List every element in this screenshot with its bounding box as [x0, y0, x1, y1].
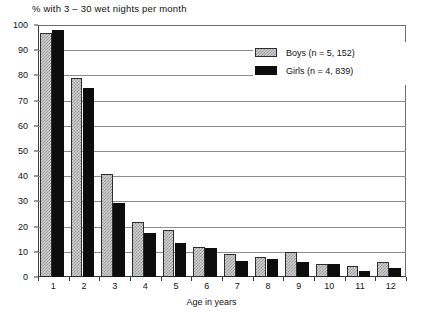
y-tick-mark: [34, 25, 38, 26]
x-tick-label: 7: [235, 281, 240, 291]
x-tick-mark: [222, 277, 223, 281]
y-tick-mark: [34, 251, 38, 252]
x-tick-mark: [314, 277, 315, 281]
legend-item-boys: Boys (n = 5, 152): [255, 45, 407, 60]
chart-title: % with 3 – 30 wet nights per month: [32, 3, 187, 14]
y-tick-mark: [34, 176, 38, 177]
y-tick-label: 10: [2, 247, 28, 257]
bar-boys-age-8: [255, 257, 267, 277]
x-tick-label: 11: [355, 281, 364, 291]
y-tick-label: 40: [2, 171, 28, 181]
y-tick-label: 50: [2, 146, 28, 156]
bar-boys-age-4: [132, 222, 144, 277]
y-tick-mark: [34, 125, 38, 126]
y-tick-label: 60: [2, 121, 28, 131]
bar-girls-age-8: [267, 259, 279, 277]
x-tick-label: 12: [386, 281, 396, 291]
bar-girls-age-6: [205, 248, 217, 277]
bar-boys-age-3: [101, 174, 113, 277]
x-tick-mark: [345, 277, 346, 281]
bar-girls-age-10: [328, 264, 340, 277]
y-tick-label: 90: [2, 45, 28, 55]
bar-girls-age-9: [297, 262, 309, 277]
x-tick-label: 9: [296, 281, 301, 291]
girls-swatch-icon: [255, 66, 277, 75]
bar-chart: % with 3 – 30 wet nights per month 01020…: [0, 0, 423, 320]
y-tick-label: 80: [2, 70, 28, 80]
legend-label-boys: Boys (n = 5, 152): [286, 48, 355, 58]
x-tick-mark: [406, 277, 407, 281]
x-tick-label: 1: [51, 281, 56, 291]
x-tick-mark: [283, 277, 284, 281]
bar-boys-age-9: [285, 252, 297, 277]
x-axis-title: Age in years: [0, 297, 423, 307]
x-tick-label: 6: [204, 281, 209, 291]
gridline: [38, 25, 406, 26]
bar-girls-age-7: [236, 261, 248, 277]
x-tick-label: 10: [324, 281, 334, 291]
bar-girls-age-5: [175, 243, 187, 277]
y-tick-label: 70: [2, 96, 28, 106]
bar-boys-age-10: [316, 264, 328, 277]
bar-girls-age-12: [389, 268, 401, 277]
y-tick-mark: [34, 277, 38, 278]
y-tick-mark: [34, 50, 38, 51]
bar-boys-age-5: [163, 230, 175, 277]
y-tick-mark: [34, 100, 38, 101]
bar-boys-age-6: [193, 247, 205, 277]
y-tick-label: 20: [2, 222, 28, 232]
bar-girls-age-11: [359, 271, 371, 277]
y-tick-mark: [34, 226, 38, 227]
x-tick-mark: [253, 277, 254, 281]
bar-boys-age-11: [347, 266, 359, 277]
x-tick-label: 8: [265, 281, 270, 291]
y-tick-label: 100: [2, 20, 28, 30]
y-tick-label: 0: [2, 272, 28, 282]
bar-boys-age-12: [377, 262, 389, 277]
y-tick-label: 30: [2, 196, 28, 206]
x-tick-mark: [99, 277, 100, 281]
x-tick-mark: [191, 277, 192, 281]
bar-boys-age-7: [224, 254, 236, 277]
y-tick-mark: [34, 75, 38, 76]
bar-boys-age-2: [71, 78, 83, 277]
bar-girls-age-1: [52, 30, 64, 277]
bar-girls-age-2: [83, 88, 95, 277]
x-tick-label: 4: [143, 281, 148, 291]
y-tick-mark: [34, 151, 38, 152]
x-tick-label: 2: [81, 281, 86, 291]
legend-label-girls: Girls (n = 4, 839): [286, 66, 353, 76]
boys-swatch-icon: [255, 48, 277, 57]
x-tick-mark: [130, 277, 131, 281]
bar-girls-age-4: [144, 233, 156, 277]
legend-item-girls: Girls (n = 4, 839): [255, 63, 407, 78]
x-tick-label: 3: [112, 281, 117, 291]
x-tick-mark: [69, 277, 70, 281]
x-tick-mark: [161, 277, 162, 281]
x-tick-mark: [38, 277, 39, 281]
chart-legend: Boys (n = 5, 152) Girls (n = 4, 839): [253, 42, 409, 85]
y-tick-mark: [34, 201, 38, 202]
bar-girls-age-3: [113, 203, 125, 277]
x-tick-mark: [375, 277, 376, 281]
x-tick-label: 5: [173, 281, 178, 291]
bar-boys-age-1: [40, 33, 52, 277]
